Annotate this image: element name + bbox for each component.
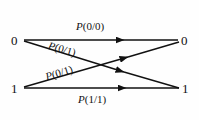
edge-label-p00-body: (0/0): [83, 20, 104, 32]
edge-line-p01-lower: [24, 57, 128, 87]
node-output-1: 1: [182, 82, 189, 95]
edge-label-p00-prefix: P: [76, 20, 83, 32]
edge-line-p01-lower-tail: [128, 42, 179, 57]
edge-label-p11: P(1/1): [78, 94, 106, 105]
node-input-0: 0: [11, 34, 18, 47]
binary-channel-diagram: 0 1 0 1 P(0/0) P(0/1) P(0/1) P(1/1): [0, 0, 199, 120]
node-input-1: 1: [11, 82, 18, 95]
edge-label-p11-body: (1/1): [85, 93, 106, 105]
edge-label-p11-prefix: P: [78, 93, 85, 105]
edge-line-p01-upper-tail: [124, 72, 179, 88]
edge-label-p00: P(0/0): [76, 21, 104, 32]
node-output-0: 0: [181, 34, 188, 47]
